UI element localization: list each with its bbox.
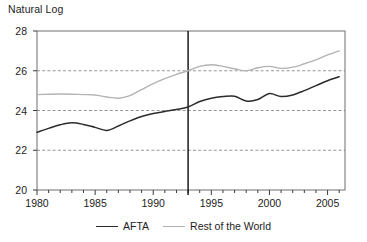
y-tick-label-20: 20: [5, 184, 27, 196]
legend-label: Rest of the World: [190, 220, 271, 232]
y-axis-title: Natural Log: [8, 3, 63, 15]
x-tick-label-1980: 1980: [17, 197, 57, 209]
legend-line-swatch: [163, 226, 185, 227]
x-tick-label-1985: 1985: [75, 197, 115, 209]
legend-entry-afta: AFTA: [96, 220, 149, 232]
y-tick-label-26: 26: [5, 65, 27, 77]
y-tick-label-22: 22: [5, 144, 27, 156]
x-tick-label-1995: 1995: [191, 197, 231, 209]
chart-legend: AFTARest of the World: [0, 220, 367, 232]
x-tick-label-2005: 2005: [308, 197, 348, 209]
chart-figure: Natural Log 2022242628 19801985199019952…: [0, 0, 367, 242]
axis-ticks: [33, 31, 339, 195]
x-tick-label-1990: 1990: [133, 197, 173, 209]
x-tick-label-2000: 2000: [249, 197, 289, 209]
legend-line-swatch: [96, 226, 118, 227]
legend-label: AFTA: [123, 220, 149, 232]
gridlines-group: [37, 71, 345, 151]
y-tick-label-28: 28: [5, 25, 27, 37]
legend-entry-rest-of-the-world: Rest of the World: [163, 220, 271, 232]
y-tick-label-24: 24: [5, 105, 27, 117]
